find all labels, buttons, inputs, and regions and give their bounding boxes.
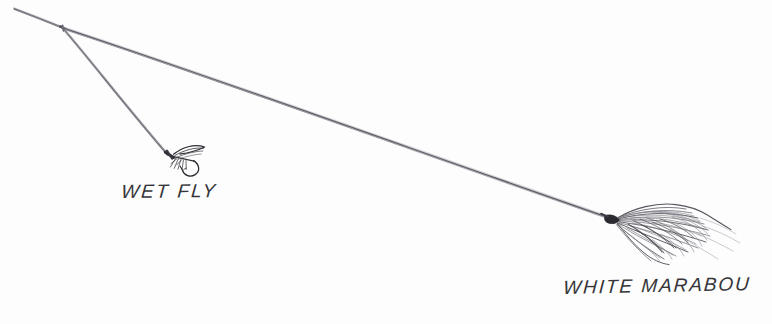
illustration-canvas: WET FLY WHITE MARABOU <box>0 0 772 324</box>
label-white-marabou: WHITE MARABOU <box>563 273 752 299</box>
wet-fly-wing <box>173 146 204 160</box>
tippet-line <box>14 9 62 28</box>
white-marabou-streamer <box>601 204 740 265</box>
wet-fly-head <box>165 151 173 159</box>
dropper-line <box>63 28 168 154</box>
label-wet-fly: WET FLY <box>120 180 218 203</box>
marabou-fibres <box>616 207 740 262</box>
wet-fly <box>165 146 204 176</box>
leader-lines <box>14 9 611 220</box>
wet-fly-hackle <box>170 158 186 169</box>
